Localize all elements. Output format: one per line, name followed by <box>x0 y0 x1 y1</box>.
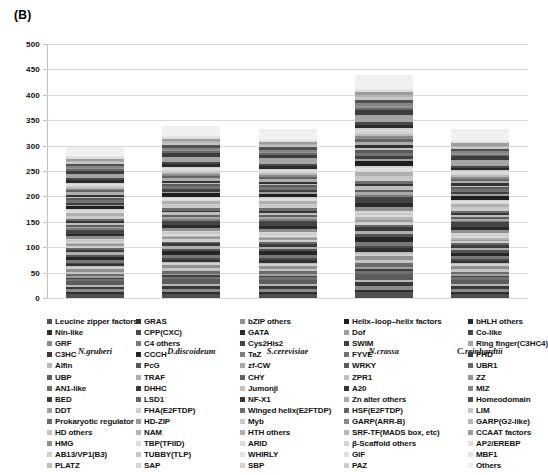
stacked-bar[interactable] <box>451 129 509 298</box>
legend-item[interactable]: Zn alter others <box>344 394 442 405</box>
bar-segment[interactable] <box>451 294 509 298</box>
legend-item[interactable]: AB13/VP1(B3) <box>47 449 138 460</box>
legend-swatch-icon <box>47 452 52 457</box>
legend-item[interactable]: UBR1 <box>468 360 548 371</box>
legend-item[interactable]: MBF1 <box>468 449 548 460</box>
legend-item[interactable]: Homeodomain <box>468 394 548 405</box>
legend-item[interactable]: HTH others <box>240 427 331 438</box>
legend-item[interactable]: HD others <box>47 427 138 438</box>
legend-item[interactable]: Leucine zipper factors <box>47 316 138 327</box>
legend-item[interactable]: GRF <box>47 338 138 349</box>
stacked-bar[interactable] <box>259 128 317 298</box>
legend-item[interactable]: Winged helix(E2FTDP) <box>240 405 331 416</box>
bar-segment[interactable] <box>162 294 220 298</box>
bar-segment[interactable] <box>66 147 124 156</box>
legend-item-label: Leucine zipper factors <box>55 317 138 326</box>
legend-item[interactable]: TRAF <box>136 371 195 382</box>
bar-segment[interactable] <box>259 129 317 140</box>
legend-item[interactable]: PHD <box>468 349 548 360</box>
legend-item[interactable]: DDT <box>47 405 138 416</box>
legend-item-label: NF-X1 <box>248 395 271 404</box>
legend-item[interactable]: SRF-TF(MADS box, etc) <box>344 427 442 438</box>
legend-item[interactable]: Helix–loop–helix factors <box>344 316 442 327</box>
legend-item[interactable]: SAP <box>136 460 195 471</box>
legend-swatch-icon <box>240 330 245 335</box>
bar-segment[interactable] <box>162 126 220 136</box>
legend-item[interactable]: LIM <box>468 405 548 416</box>
legend-item[interactable]: PcG <box>136 360 195 371</box>
legend-item-label: Jumonji <box>248 384 278 393</box>
bar-segment[interactable] <box>259 294 317 298</box>
legend-item[interactable]: Prokaryotic regulator <box>47 416 138 427</box>
legend-item[interactable]: TUBBY(TLP) <box>136 449 195 460</box>
legend-item[interactable]: HMG <box>47 438 138 449</box>
legend-item[interactable]: A20 <box>344 383 442 394</box>
legend-swatch-icon <box>136 441 141 446</box>
legend-item[interactable]: HD-ZIP <box>136 416 195 427</box>
legend-item[interactable]: PLATZ <box>47 460 138 471</box>
legend-item[interactable]: SBP <box>240 460 331 471</box>
bar-segment[interactable] <box>355 115 413 122</box>
legend-item[interactable]: C3HC <box>47 349 138 360</box>
legend-item[interactable]: Dof <box>344 327 442 338</box>
legend-swatch-icon <box>344 419 349 424</box>
legend-item[interactable]: Cys2His2 <box>240 338 331 349</box>
legend-item[interactable]: NAM <box>136 427 195 438</box>
legend-item[interactable]: WRKY <box>344 360 442 371</box>
legend-item[interactable]: ZPR1 <box>344 371 442 382</box>
bar-segment[interactable] <box>355 75 413 89</box>
legend-item[interactable]: Myb <box>240 416 331 427</box>
legend-item[interactable]: Co-like <box>468 327 548 338</box>
legend-item[interactable]: GARP(G2-like) <box>468 416 548 427</box>
legend-item[interactable]: ARID <box>240 438 331 449</box>
bar-segment[interactable] <box>451 129 509 140</box>
legend-swatch-icon <box>344 441 349 446</box>
legend-swatch-icon <box>344 430 349 435</box>
stacked-bar[interactable] <box>66 147 124 298</box>
legend-item[interactable]: WHIRLY <box>240 449 331 460</box>
legend-item[interactable]: CCCH <box>136 349 195 360</box>
legend-item[interactable]: BED <box>47 394 138 405</box>
legend-item[interactable]: AP2/EREBP <box>468 438 548 449</box>
bar-segment[interactable] <box>355 292 413 298</box>
legend-item[interactable]: Jumonji <box>240 383 331 394</box>
legend-item[interactable]: ZZ <box>468 371 548 382</box>
legend-item[interactable]: Others <box>468 460 548 471</box>
legend-item[interactable]: PAZ <box>344 460 442 471</box>
legend-item[interactable]: GARP(ARR-B) <box>344 416 442 427</box>
legend-item[interactable]: FYVE <box>344 349 442 360</box>
chart-legend: Leucine zipper factorsNin-likeGRFC3HCAlf… <box>47 316 535 474</box>
legend-column: bHLH othersCo-likeRing finger(C3HC4)PHDU… <box>468 316 548 471</box>
legend-item[interactable]: Ring finger(C3HC4) <box>468 338 548 349</box>
stacked-bar[interactable] <box>162 125 220 298</box>
legend-item[interactable]: FHA(E2FTDP) <box>136 405 195 416</box>
legend-item[interactable]: GATA <box>240 327 331 338</box>
legend-item[interactable]: Nin-like <box>47 327 138 338</box>
legend-item[interactable]: zf-CW <box>240 360 331 371</box>
legend-item[interactable]: LSD1 <box>136 394 195 405</box>
legend-swatch-icon <box>136 341 141 346</box>
legend-item[interactable]: bHLH others <box>468 316 548 327</box>
legend-item[interactable]: NF-X1 <box>240 394 331 405</box>
legend-item[interactable]: SWIM <box>344 338 442 349</box>
bar-segment[interactable] <box>66 294 124 298</box>
legend-item[interactable]: MIZ <box>468 383 548 394</box>
legend-item[interactable]: UBP <box>47 371 138 382</box>
legend-item[interactable]: CPP(CXC) <box>136 327 195 338</box>
legend-item[interactable]: GIF <box>344 449 442 460</box>
legend-item[interactable]: β-Scaffold others <box>344 438 442 449</box>
legend-item[interactable]: CHY <box>240 371 331 382</box>
legend-item[interactable]: CCAAT factors <box>468 427 548 438</box>
stacked-bar[interactable] <box>355 74 413 298</box>
legend-item[interactable]: C4 others <box>136 338 195 349</box>
legend-item[interactable]: Alfin <box>47 360 138 371</box>
legend-item[interactable]: GRAS <box>136 316 195 327</box>
legend-item-label: Alfin <box>55 361 72 370</box>
legend-item[interactable]: HSF(E2FTDP) <box>344 405 442 416</box>
legend-item-label: TRAF <box>144 373 165 382</box>
legend-item[interactable]: AN1-like <box>47 383 138 394</box>
legend-item[interactable]: TBP(TFIID) <box>136 438 195 449</box>
legend-item[interactable]: bZIP others <box>240 316 331 327</box>
legend-item[interactable]: DHHC <box>136 383 195 394</box>
legend-item[interactable]: TaZ <box>240 349 331 360</box>
